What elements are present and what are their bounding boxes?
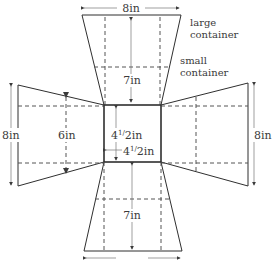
container-notes: large container small container [180,17,239,78]
bottom-panel: 7in [84,162,182,258]
container-net-diagram: 8in 7in large container small container … [0,0,277,265]
small-container-label-line2: container [180,67,229,78]
large-container-label-line1: large [190,17,216,28]
right-height-label: 8in [254,129,272,142]
center-vertical-label: 41/2in [111,129,142,142]
bottom-height-label: 7in [123,209,141,222]
top-width-label: 8in [122,2,140,15]
large-container-label-line2: container [190,29,239,40]
right-panel: 8in [161,83,276,186]
center-square: 41/2in 41/2in [104,105,161,162]
top-panel: 8in 7in [82,1,181,105]
left-height-label: 8in [2,129,20,142]
center-horizontal-label: 41/2in [123,145,154,158]
left-panel: 8in 6in [2,85,104,186]
top-height-label: 7in [123,74,141,87]
small-container-label-line1: small [180,55,207,66]
left-inner-label: 6in [58,129,76,142]
